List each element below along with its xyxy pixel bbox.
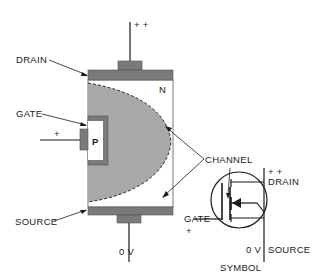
source-voltage-label: 0 V xyxy=(119,246,135,257)
channel-label: CHANNEL xyxy=(205,154,253,165)
jfet-diagram: + + 0 V P + N DRAIN GATE SOURCE CHANNEL xyxy=(0,0,318,280)
symbol-title: SYMBOL xyxy=(220,262,261,273)
symbol-drain-label: DRAIN xyxy=(268,176,299,187)
drain-bar xyxy=(88,70,173,80)
gate-leader xyxy=(42,114,86,125)
gate-label: GATE xyxy=(16,108,42,119)
drain-voltage-label: + + xyxy=(134,19,149,30)
symbol-arrow-icon xyxy=(232,198,241,208)
drain-arrowhead-icon xyxy=(81,72,88,76)
drain-label: DRAIN xyxy=(16,54,47,65)
source-contact xyxy=(117,215,141,223)
gate-polarity-label: + xyxy=(54,128,60,139)
drain-leader xyxy=(49,60,87,75)
source-bar xyxy=(88,207,173,215)
source-arrowhead-icon xyxy=(80,210,87,214)
source-label: SOURCE xyxy=(15,216,57,227)
symbol-source-label: SOURCE xyxy=(268,244,310,255)
symbol-gate-polarity-label: + xyxy=(186,225,192,236)
symbol-source-voltage-label: 0 V xyxy=(246,244,262,255)
symbol-gate-label: GATE xyxy=(184,213,210,224)
gate-arrowhead-icon xyxy=(80,122,87,126)
n-region-label: N xyxy=(159,84,166,95)
drain-contact xyxy=(118,61,142,70)
p-region-label: P xyxy=(92,136,99,147)
gate-contact xyxy=(80,129,88,150)
